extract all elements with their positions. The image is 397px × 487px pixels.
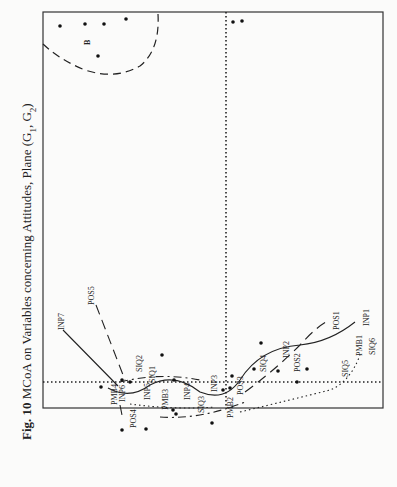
label-pmb3: PMB3 bbox=[161, 389, 170, 410]
label-inp6: INP6 bbox=[118, 385, 127, 402]
caption-comma: , G bbox=[19, 112, 34, 128]
label-pos5: POS5 bbox=[87, 286, 96, 305]
label-inp4: INP4 bbox=[183, 383, 192, 400]
variable-labels: INP7 POS5 PMB4 INP6 POS4 INP5 SIQ2 SIQ1 … bbox=[57, 286, 377, 428]
label-pos4: POS4 bbox=[129, 409, 138, 428]
caption-close: ) bbox=[19, 103, 34, 107]
label-siq4: SIQ4 bbox=[259, 355, 268, 372]
page: B INP7 POS5 PMB4 INP6 POS4 INP5 SIQ2 SIQ… bbox=[0, 0, 397, 487]
label-inp5: INP5 bbox=[143, 383, 152, 400]
label-pos1: POS1 bbox=[332, 311, 341, 330]
label-siq2: SIQ2 bbox=[135, 355, 144, 372]
label-siq5: SIQ5 bbox=[341, 360, 350, 377]
label-inp3: INP3 bbox=[210, 375, 219, 392]
label-inp7: INP7 bbox=[57, 313, 66, 330]
label-pmb2: PMB2 bbox=[226, 397, 235, 418]
mcoa-figure: B INP7 POS5 PMB4 INP6 POS4 INP5 SIQ2 SIQ… bbox=[0, 0, 397, 487]
label-siq3: SIQ3 bbox=[197, 396, 206, 413]
label-pos2: POS2 bbox=[293, 353, 302, 372]
figure-caption: Fig. 10 MCoA on Variables concerning Att… bbox=[19, 103, 38, 440]
label-pmb1: PMB1 bbox=[355, 335, 364, 356]
label-siq6: SIQ6 bbox=[368, 338, 377, 355]
label-inp2: INP2 bbox=[282, 341, 291, 358]
label-siq1: SIQ1 bbox=[148, 366, 157, 383]
group-b-label: B bbox=[83, 39, 92, 45]
label-pos3: POS3 bbox=[236, 376, 245, 395]
group-b-enclosure bbox=[43, 14, 158, 74]
caption-fig-number: Fig. 10 bbox=[19, 402, 34, 440]
caption-text: MCoA on Variables concerning Attitudes, … bbox=[19, 133, 34, 403]
plot-frame bbox=[43, 12, 383, 408]
label-inp1: INP1 bbox=[362, 309, 371, 326]
